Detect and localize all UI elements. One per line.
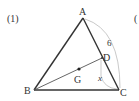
problem-number-label: (1): [7, 13, 19, 25]
arc-dc-measure: [101, 60, 117, 89]
next-problem-label-partial: (: [134, 13, 138, 25]
vertex-label-a: A: [79, 6, 87, 17]
point-g: [77, 67, 80, 70]
measure-label-6: 6: [107, 38, 112, 48]
point-label-d: D: [103, 52, 110, 63]
vertex-label-c: C: [120, 87, 127, 98]
measure-label-x: x: [97, 73, 102, 83]
vertex-label-b: B: [24, 85, 31, 96]
geometry-figure: (1) ( A B C D G 6 x: [0, 0, 139, 101]
point-label-g: G: [74, 74, 81, 85]
